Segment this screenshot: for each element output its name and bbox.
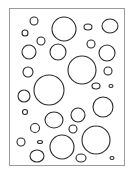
- circle: [102, 19, 118, 33]
- circle: [45, 112, 63, 128]
- circle: [110, 157, 114, 160]
- circle: [18, 90, 30, 102]
- circle: [109, 85, 113, 88]
- circle: [37, 37, 45, 45]
- circle: [22, 30, 28, 36]
- circle: [23, 110, 28, 115]
- circle: [30, 150, 44, 162]
- circle: [23, 67, 33, 77]
- circle: [34, 75, 64, 105]
- circle: [69, 125, 77, 133]
- circle: [17, 138, 25, 146]
- circle: [76, 154, 86, 162]
- circle: [92, 83, 100, 89]
- circle: [22, 45, 36, 59]
- circle: [99, 45, 115, 61]
- circle: [93, 97, 113, 117]
- circle: [71, 108, 85, 122]
- circle: [82, 126, 110, 154]
- circle: [50, 44, 66, 60]
- circle: [68, 56, 96, 84]
- circle: [84, 24, 92, 30]
- circle: [52, 17, 76, 41]
- circle: [50, 135, 74, 159]
- circles-diagram: [0, 0, 131, 179]
- circle: [104, 67, 112, 75]
- circle: [38, 141, 43, 144]
- circle: [31, 124, 40, 133]
- circle: [30, 17, 38, 25]
- circle: [87, 40, 95, 48]
- circle-group: [17, 17, 118, 162]
